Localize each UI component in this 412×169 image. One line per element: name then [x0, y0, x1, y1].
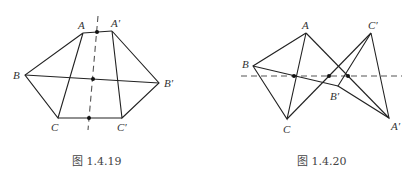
figure-1-4-20 — [241, 33, 402, 119]
figure-1-4-19 — [25, 16, 159, 130]
label-b-prime: B′ — [330, 90, 340, 102]
caption-figure-1: 图 1.4.19 — [72, 155, 121, 168]
label-c-prime: C′ — [117, 121, 127, 133]
triangle-abc — [253, 33, 306, 119]
label-c-prime: C′ — [368, 19, 378, 31]
midpoint-aa-prime — [95, 30, 99, 34]
label-a-prime: A′ — [110, 17, 121, 29]
intersection-point-2 — [327, 74, 331, 78]
label-a-prime: A′ — [390, 120, 401, 132]
midpoint-cc-prime — [87, 116, 91, 120]
label-a: A — [77, 19, 85, 31]
label-b-prime: B′ — [164, 77, 174, 89]
label-b: B — [13, 69, 20, 81]
caption-figure-2: 图 1.4.20 — [297, 155, 346, 168]
label-a: A — [301, 19, 309, 31]
label-c: C — [283, 123, 291, 135]
diagram-canvas: A A′ B B′ C C′ 图 1.4.19 A C′ B B′ C A′ 图… — [0, 0, 412, 169]
label-c: C — [51, 121, 59, 133]
intersection-point-3 — [346, 74, 350, 78]
intersection-point-1 — [292, 74, 296, 78]
midpoint-bb-prime — [91, 77, 95, 81]
label-b: B — [242, 58, 249, 70]
triangle-a-prime-b-prime-c-prime — [112, 31, 159, 118]
